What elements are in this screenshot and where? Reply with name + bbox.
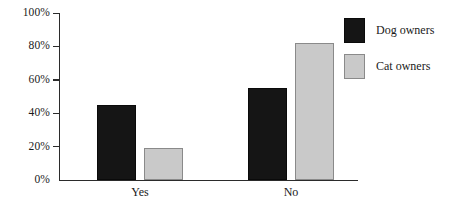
y-axis-tick-label-text: 40%	[0, 107, 50, 119]
y-axis-tick-label: 40%	[0, 107, 50, 119]
y-axis-tick-label: 60%	[0, 74, 50, 86]
bar-yes-dog	[97, 105, 136, 180]
legend-item-dog: Dog owners	[344, 18, 434, 43]
grey-swatch-icon	[344, 54, 365, 79]
plot-area	[59, 13, 358, 180]
bar-no-dog	[248, 88, 287, 180]
bar-yes-cat	[144, 148, 183, 180]
black-swatch-icon	[344, 18, 365, 43]
y-axis-tick-label: 0%	[0, 174, 50, 186]
legend-item-cat: Cat owners	[344, 54, 430, 79]
y-axis-tick-label: 100%	[0, 7, 50, 19]
y-axis-tick-label-text: 80%	[0, 40, 50, 52]
y-axis-tick-label-text: 100%	[0, 7, 50, 19]
y-axis-tick-label-text: 20%	[0, 141, 50, 153]
bar-no-cat	[295, 43, 334, 180]
y-axis-tick-label: 80%	[0, 40, 50, 52]
y-axis-tick-label-text: 60%	[0, 74, 50, 86]
legend-label: Cat owners	[376, 60, 430, 73]
y-axis-tick-label: 20%	[0, 141, 50, 153]
x-axis-label-yes: Yes	[100, 186, 180, 199]
bar-chart: 0%20%40%60%80%100% YesNo Dog ownersCat o…	[0, 0, 462, 215]
y-axis-tick-label-text: 0%	[0, 174, 50, 186]
legend-label: Dog owners	[376, 24, 434, 37]
x-axis-label-no: No	[251, 186, 331, 199]
